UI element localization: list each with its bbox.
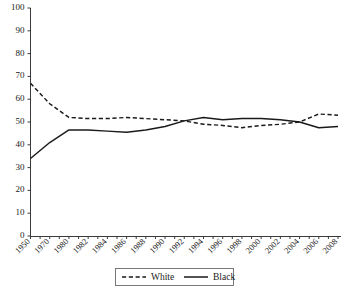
x-tick-label: 1986 — [109, 236, 128, 255]
y-axis: 0102030405060708090100 — [11, 2, 31, 240]
y-axis-tick-labels: 0102030405060708090100 — [11, 2, 25, 240]
y-tick-label: 30 — [16, 162, 26, 172]
x-tick-label: 2000 — [243, 236, 262, 255]
y-tick-label: 60 — [16, 93, 26, 103]
x-tick-label: 1992 — [167, 236, 186, 255]
x-tick-label: 2006 — [301, 236, 320, 255]
x-tick-label: 2002 — [263, 236, 282, 255]
x-tick-label: 1990 — [147, 236, 166, 255]
legend-label-black: Black — [213, 272, 235, 282]
y-tick-label: 70 — [16, 70, 26, 80]
y-tick-label: 80 — [16, 48, 26, 58]
legend-label-white: White — [151, 272, 174, 282]
chart-legend: White Black — [116, 269, 236, 286]
x-tick-label: 1980 — [51, 236, 70, 255]
y-tick-label: 40 — [16, 139, 26, 149]
x-axis: 1950197019801982198419861988199019921994… — [13, 236, 341, 256]
x-tick-label: 1988 — [128, 236, 147, 255]
x-tick-label: 1996 — [205, 236, 224, 255]
x-tick-label: 1994 — [186, 236, 206, 256]
y-tick-label: 90 — [16, 25, 26, 35]
data-series-group — [31, 83, 339, 158]
y-tick-label: 100 — [11, 2, 25, 12]
x-tick-label: 2008 — [320, 236, 339, 255]
x-tick-label: 1950 — [13, 236, 32, 255]
x-tick-label: 1970 — [32, 236, 51, 255]
x-tick-label: 1998 — [224, 236, 243, 255]
chart-container: 0102030405060708090100 19501970198019821… — [0, 0, 347, 294]
x-tick-label: 2004 — [282, 236, 302, 256]
y-tick-label: 50 — [16, 116, 26, 126]
y-tick-label: 20 — [16, 184, 26, 194]
line-chart: 0102030405060708090100 19501970198019821… — [0, 0, 347, 294]
x-tick-label: 1984 — [90, 236, 110, 256]
x-tick-label: 1982 — [70, 236, 89, 255]
y-tick-label: 10 — [16, 207, 26, 217]
x-axis-tick-labels: 1950197019801982198419861988199019921994… — [13, 236, 340, 256]
